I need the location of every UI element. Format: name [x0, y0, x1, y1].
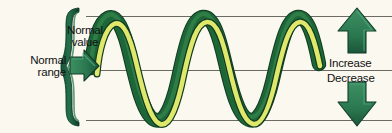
normal-range-oscillation-figure: Normal range Normal value Increase Decre… — [0, 0, 392, 133]
normal-value-label: Normal value — [58, 24, 112, 49]
normal-range-label: Normal range — [4, 54, 66, 79]
increase-label: Increase — [329, 57, 372, 69]
decrease-label: Decrease — [327, 72, 375, 84]
